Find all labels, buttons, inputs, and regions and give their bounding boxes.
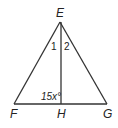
angle-label-1: 1 bbox=[51, 42, 57, 52]
vertex-label-e: E bbox=[56, 7, 64, 19]
angle-measure-label: 15x° bbox=[41, 92, 61, 102]
vertex-label-f: F bbox=[10, 108, 17, 120]
vertex-label-g: G bbox=[103, 108, 112, 120]
triangle-diagram: E F H G 1 2 15x° bbox=[0, 0, 118, 128]
vertex-label-h: H bbox=[57, 108, 66, 120]
angle-label-2: 2 bbox=[64, 42, 70, 52]
segment-eg bbox=[60, 22, 107, 104]
